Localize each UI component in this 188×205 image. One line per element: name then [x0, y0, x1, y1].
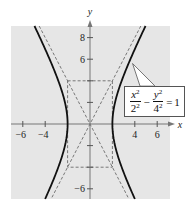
y-denominator-exponent: 2 [159, 102, 163, 110]
x-tick-label: 6 [155, 129, 160, 140]
y-axis-arrow-icon [88, 20, 93, 27]
x-tick-label: −4 [38, 129, 49, 140]
x-tick-label: −6 [15, 129, 26, 140]
equation-label-box: x2 22 − y2 42 = 1 [124, 86, 185, 117]
minus-sign: − [144, 96, 150, 108]
equation-rhs: 1 [174, 96, 180, 108]
y-axis-label: y [87, 6, 93, 17]
y-tick-label: 8 [80, 32, 85, 43]
equals-sign: = [166, 96, 172, 108]
x-axis-arrow-icon [168, 122, 175, 127]
y-fraction: y2 42 [153, 89, 163, 114]
x-tick-label: 4 [132, 129, 137, 140]
y-tick-label: −6 [74, 183, 85, 194]
x-axis-label: x [177, 119, 183, 130]
x-denominator-exponent: 2 [136, 102, 140, 110]
y-tick-label: 6 [80, 54, 85, 65]
x-exponent: 2 [136, 88, 140, 96]
y-exponent: 2 [159, 88, 163, 96]
x-fraction: x2 22 [130, 89, 140, 114]
